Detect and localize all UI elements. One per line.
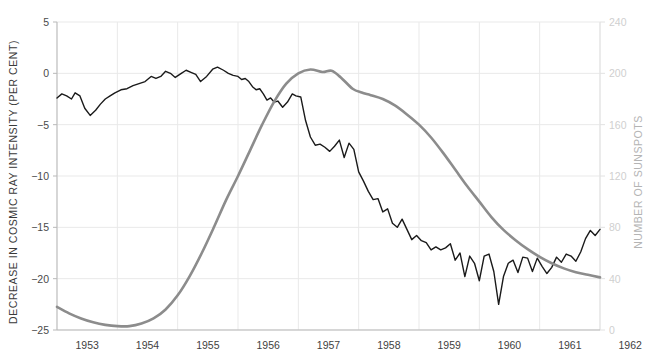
y-tick-label-right: 0 (609, 324, 615, 336)
y-axis-right-ticks: 24020016012080400 (600, 16, 627, 336)
y-axis-left-title: DECREASE IN COSMIC RAY INTENSITY (PER CE… (7, 40, 19, 324)
y-tick-label-right: 160 (609, 119, 627, 131)
y-tick-label-left: 5 (43, 16, 49, 28)
chart-root: 50−5−10−15−20−25 24020016012080400 19531… (0, 0, 653, 364)
y-tick-label-left: −5 (37, 119, 49, 131)
y-tick-label-right: 200 (609, 67, 627, 79)
grid-lines (57, 22, 600, 330)
y-axis-right-title: NUMBER OF SUNSPOTS (632, 115, 644, 249)
y-tick-label-left: −25 (31, 324, 49, 336)
y-tick-label-left: 0 (43, 67, 49, 79)
x-tick-label: 1957 (317, 339, 341, 351)
x-tick-label: 1960 (498, 339, 522, 351)
y-tick-label-right: 80 (609, 221, 621, 233)
cosmic-ray-sunspot-chart: 50−5−10−15−20−25 24020016012080400 19531… (0, 0, 653, 364)
x-tick-label: 1962 (618, 339, 642, 351)
y-tick-label-right: 120 (609, 170, 627, 182)
sunspot-line (57, 69, 600, 326)
y-axis-left-ticks: 50−5−10−15−20−25 (31, 16, 57, 336)
y-tick-label-right: 240 (609, 16, 627, 28)
y-tick-label-left: −15 (31, 221, 49, 233)
x-tick-label: 1959 (437, 339, 461, 351)
x-tick-label: 1956 (256, 339, 280, 351)
y-tick-label-left: −10 (31, 170, 49, 182)
cosmic-ray-line (57, 67, 600, 304)
y-tick-label-left: −20 (31, 273, 49, 285)
x-tick-label: 1953 (75, 339, 99, 351)
x-tick-label: 1955 (196, 339, 220, 351)
x-tick-label: 1954 (136, 339, 160, 351)
x-tick-label: 1961 (558, 339, 582, 351)
x-axis-ticks: 1953195419551956195719581959196019611962 (75, 339, 642, 351)
y-tick-label-right: 40 (609, 273, 621, 285)
data-series (57, 67, 600, 326)
x-tick-label: 1958 (377, 339, 401, 351)
